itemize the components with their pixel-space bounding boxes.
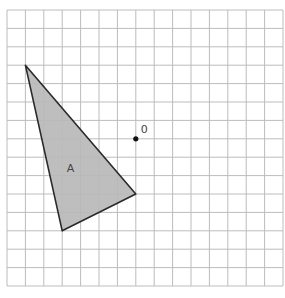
point-o	[133, 136, 138, 141]
grid-diagram: A 0	[0, 0, 285, 298]
triangle-a-label: A	[67, 162, 75, 175]
point-o-label: 0	[141, 123, 148, 136]
